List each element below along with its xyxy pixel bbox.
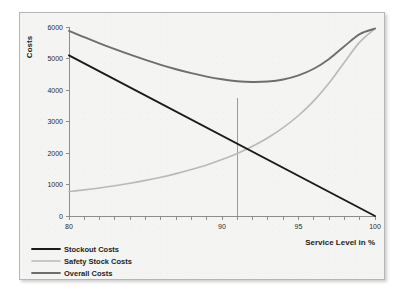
x-axis-title: Service Level in % — [305, 238, 375, 247]
plot-layers: 0100020003000400050006000809095100Servic… — [25, 24, 381, 278]
series-line-overall-costs — [69, 29, 375, 82]
y-tick-label: 1000 — [47, 181, 63, 188]
y-tick-label: 4000 — [47, 87, 63, 94]
series-line-safety-stock-costs — [69, 29, 375, 192]
x-tick-label: 100 — [369, 223, 381, 230]
y-tick-label: 5000 — [47, 55, 63, 62]
x-tick-label: 95 — [295, 223, 303, 230]
y-axis-title: Costs — [25, 35, 34, 58]
legend-label-1: Safety Stock Costs — [64, 257, 132, 266]
x-tick-label: 90 — [218, 223, 226, 230]
x-tick-label: 80 — [65, 223, 73, 230]
cost-service-level-chart: 0100020003000400050006000809095100Servic… — [20, 13, 386, 281]
legend-label-0: Stockout Costs — [64, 245, 119, 254]
y-tick-label: 3000 — [47, 118, 63, 125]
legend-label-2: Overall Costs — [64, 269, 112, 278]
chart-screenshot: 0100020003000400050006000809095100Servic… — [0, 0, 404, 293]
y-tick-label: 0 — [59, 213, 63, 220]
y-tick-label: 2000 — [47, 150, 63, 157]
y-tick-label: 6000 — [47, 24, 63, 31]
chart-panel: 0100020003000400050006000809095100Servic… — [19, 12, 385, 280]
